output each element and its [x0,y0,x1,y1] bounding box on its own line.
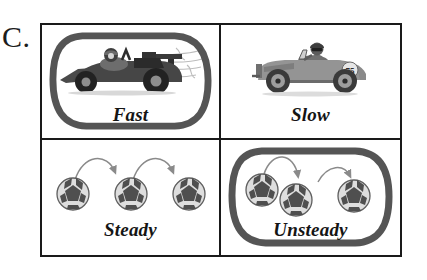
panel-caption-steady: Steady [104,219,157,241]
panel-caption-slow: Slow [291,104,330,126]
answer-choice-grid: Fast [40,23,402,257]
worksheet-figure: C. [0,0,427,280]
panel-unsteady[interactable]: Unsteady [221,140,400,255]
question-label: C. [2,22,31,52]
artwork-unsteady-bouncing-balls [221,146,400,218]
panel-caption-unsteady: Unsteady [273,219,347,241]
panel-fast[interactable]: Fast [42,25,221,140]
artwork-race-car [42,31,219,103]
bounce-arrow-icon [75,159,173,180]
panel-caption-fast: Fast [113,104,149,126]
soccer-ball-icon [280,184,312,216]
panel-steady[interactable]: Steady [42,140,221,255]
soccer-ball-icon [246,174,278,206]
soccer-ball-icon [115,178,147,210]
soccer-ball-icon [173,178,205,210]
bounce-arrow-icon [264,157,350,182]
artwork-vintage-car: 75 [221,31,400,103]
panel-slow[interactable]: 75 [221,25,400,140]
soccer-ball-icon [57,178,89,210]
artwork-steady-bouncing-balls [42,146,219,218]
soccer-ball-icon [338,180,370,212]
